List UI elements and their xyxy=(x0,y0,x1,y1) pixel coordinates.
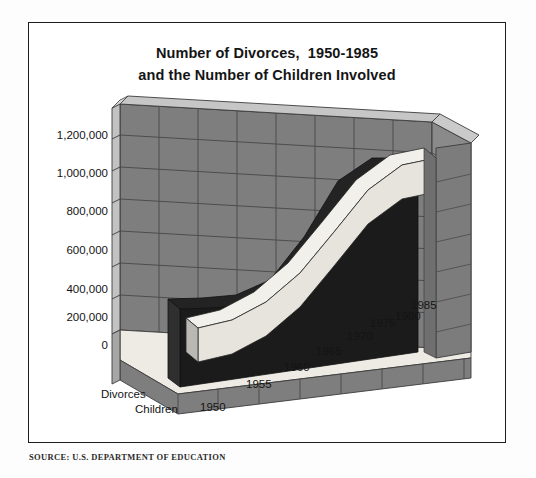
front-right-wall xyxy=(424,143,471,358)
x-axis-label-1965: 1965 xyxy=(316,345,342,357)
series-label-divorces: Divorces xyxy=(101,388,146,400)
source-caption: SOURCE: U.S. DEPARTMENT OF EDUCATION xyxy=(29,452,226,462)
x-axis-label-1985: 1985 xyxy=(411,299,437,311)
y-axis-label: 400,000 xyxy=(8,283,108,295)
y-axis-label: 200,000 xyxy=(8,311,108,323)
x-axis-label-1955: 1955 xyxy=(246,378,272,390)
series-label-children: Children xyxy=(135,403,178,415)
x-axis-label-1950: 1950 xyxy=(200,401,226,413)
chart-plot-area: 1,200,000 1,000,000 800,000 600,000 400,… xyxy=(28,22,506,443)
y-axis-label: 600,000 xyxy=(8,244,108,256)
y-axis-label: 1,000,000 xyxy=(8,167,108,179)
x-axis-label-1980: 1980 xyxy=(395,310,421,322)
y-axis-label: 1,200,000 xyxy=(8,129,108,141)
y-axis-label: 800,000 xyxy=(8,205,108,217)
figure-page: Number of Divorces, 1950-1985 and the Nu… xyxy=(0,0,536,478)
x-axis-label-1960: 1960 xyxy=(284,361,310,373)
x-axis-label-1975: 1975 xyxy=(370,317,396,329)
x-axis-label-1970: 1970 xyxy=(347,330,373,342)
y-axis-label: 0 xyxy=(8,339,108,351)
